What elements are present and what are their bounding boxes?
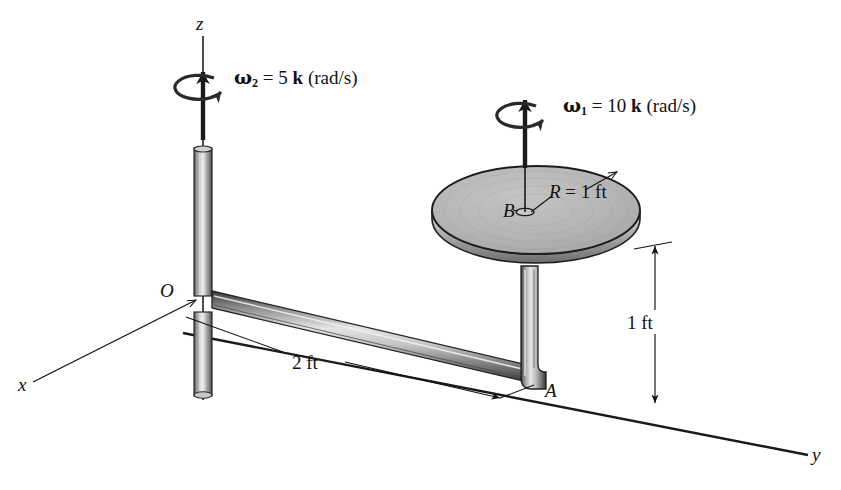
omega-2-vector	[175, 72, 221, 140]
y-axis	[183, 333, 808, 455]
omega-1-units: (rad/s)	[646, 95, 696, 116]
diagram-svg	[0, 0, 841, 490]
axis-label-x: x	[18, 375, 26, 394]
dimension-label-radius: R = 1 ft	[549, 182, 607, 201]
dimension-label-1ft: 1 ft	[627, 313, 653, 332]
omega-1-equals: =	[592, 95, 603, 116]
omega-2-symbol: ω	[234, 66, 252, 88]
omega-2-label: ω2 = 5 k (rad/s)	[234, 68, 357, 89]
rotating-disk	[432, 166, 640, 263]
omega-2-units: (rad/s)	[308, 67, 358, 88]
point-label-o: O	[160, 281, 174, 300]
omega-1-magnitude: 10	[607, 95, 626, 116]
x-axis	[33, 300, 196, 382]
dimension-label-2ft: 2 ft	[292, 353, 318, 372]
omega-1-subscript: 1	[581, 104, 587, 118]
omega-2-magnitude: 5	[278, 67, 288, 88]
axis-label-y: y	[812, 445, 820, 464]
omega-2-unit-vector: k	[293, 67, 304, 88]
disk-support-post	[521, 266, 546, 389]
omega-2-subscript: 2	[252, 76, 258, 90]
vertical-shaft	[194, 146, 212, 398]
point-label-b: B	[503, 201, 515, 220]
figure-canvas: z x y O A B ω2 = 5 k (rad/s) ω1 = 10 k (…	[0, 0, 841, 490]
omega-1-symbol: ω	[563, 94, 581, 116]
radius-symbol: R	[549, 181, 561, 202]
omega-1-unit-vector: k	[631, 95, 642, 116]
omega-2-equals: =	[263, 67, 274, 88]
omega-1-label: ω1 = 10 k (rad/s)	[563, 96, 696, 117]
point-label-a: A	[545, 381, 557, 400]
axis-label-z: z	[196, 14, 203, 33]
radius-value: = 1 ft	[561, 181, 607, 202]
